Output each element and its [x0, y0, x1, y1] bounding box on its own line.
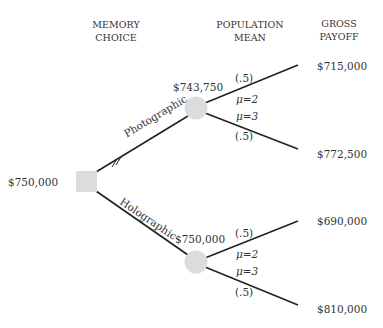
header-population-mean: POPULATION MEAN [210, 18, 290, 44]
payoff-value: $772,500 [317, 149, 367, 160]
chance-node-photographic [185, 97, 208, 120]
outcome-probability: (.5) [235, 73, 253, 84]
outcome-mu: μ=2 [236, 94, 258, 105]
payoff-value: $715,000 [317, 61, 367, 72]
outcome-probability: (.5) [235, 131, 253, 142]
chance-node-holographic [185, 251, 208, 274]
outcome-probability: (.5) [235, 287, 253, 298]
holographic-branch-line [96, 191, 188, 255]
outcome-mu: μ=3 [236, 266, 258, 277]
header-line: PAYOFF [314, 30, 364, 43]
holographic-expected-value: $750,000 [175, 234, 225, 245]
outcome-mu: μ=3 [236, 111, 258, 122]
outcome-mu: μ=2 [236, 249, 258, 260]
header-line: GROSS [314, 17, 364, 30]
decision-node-square [76, 171, 97, 192]
payoff-value: $690,000 [317, 216, 367, 227]
decision-tree-diagram: MEMORY CHOICE POPULATION MEAN GROSS PAYO… [0, 0, 383, 328]
payoff-value: $810,000 [317, 304, 367, 315]
root-value: $750,000 [8, 177, 58, 188]
outcome-probability: (.5) [235, 228, 253, 239]
header-line: MEMORY [86, 18, 146, 31]
header-gross-payoff: GROSS PAYOFF [314, 17, 364, 43]
header-memory-choice: MEMORY CHOICE [86, 18, 146, 44]
tree-lines [0, 0, 383, 328]
header-line: CHOICE [86, 31, 146, 44]
header-line: MEAN [210, 31, 290, 44]
photographic-expected-value: $743,750 [173, 82, 223, 93]
header-line: POPULATION [210, 18, 290, 31]
